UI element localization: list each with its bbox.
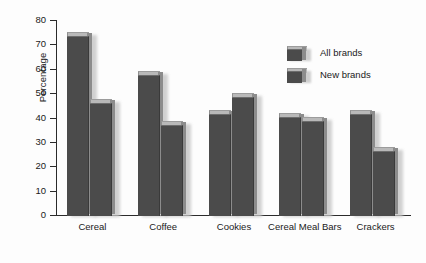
y-axis-tick-mark — [50, 69, 57, 70]
y-axis-tick-label: 70 — [4, 39, 46, 49]
y-axis-tick-label-slot: 80 — [0, 20, 46, 21]
bar-front-face — [350, 114, 372, 216]
y-axis-tick-mark — [50, 20, 57, 21]
y-axis-tick-label: 0 — [4, 210, 46, 220]
legend-item-label: New brands — [320, 69, 371, 80]
y-axis-tick-mark — [50, 166, 57, 167]
y-axis-tick-mark — [50, 93, 57, 94]
y-axis-tick-label-slot: 60 — [0, 69, 46, 70]
y-axis-tick-label-slot: 20 — [0, 166, 46, 167]
y-axis-tick-label: 50 — [4, 88, 46, 98]
bar-front-face — [232, 97, 254, 216]
legend-swatch-icon — [287, 46, 311, 60]
bar-chart: Percentage 01020304050607080 CerealCoffe… — [0, 0, 426, 263]
y-axis-tick-mark — [50, 44, 57, 45]
y-axis-tick-label-slot: 40 — [0, 118, 46, 119]
y-axis-tick-label-slot: 70 — [0, 44, 46, 45]
legend-swatch-side-face — [302, 47, 306, 60]
legend-swatch-icon — [287, 68, 311, 82]
y-axis-tick-label: 60 — [4, 64, 46, 74]
bar — [90, 99, 116, 215]
y-axis-tick-mark — [50, 191, 57, 192]
y-axis-tick-label: 30 — [4, 137, 46, 147]
y-axis-tick-label: 10 — [4, 186, 46, 196]
y-axis-tick-label-slot: 30 — [0, 142, 46, 143]
legend-item-label: All brands — [320, 47, 362, 58]
bar-front-face — [67, 36, 89, 216]
y-axis-tick-label: 80 — [4, 15, 46, 25]
legend-swatch-front-face — [287, 49, 302, 61]
bar-front-face — [302, 121, 324, 216]
y-axis-tick-label: 40 — [4, 113, 46, 123]
legend-swatch-front-face — [287, 71, 302, 83]
x-axis-tick-label: Crackers — [328, 221, 424, 233]
bar — [161, 121, 187, 215]
bar-front-face — [138, 75, 160, 216]
legend-swatch-side-face — [302, 69, 306, 82]
y-axis-tick-label: 20 — [4, 161, 46, 171]
bar-front-face — [279, 117, 301, 217]
bar — [232, 93, 258, 215]
y-axis-tick-mark — [50, 215, 57, 216]
y-axis-tick-label-slot: 50 — [0, 93, 46, 94]
y-axis-tick-mark — [50, 118, 57, 119]
bar — [302, 117, 328, 215]
y-axis-tick-label-slot: 10 — [0, 191, 46, 192]
bar-front-face — [209, 114, 231, 216]
bar-front-face — [373, 151, 395, 216]
y-axis-title: Percentage — [37, 38, 48, 118]
y-axis-tick-mark — [50, 142, 57, 143]
bar-front-face — [90, 103, 112, 216]
bar-front-face — [161, 125, 183, 216]
bar — [373, 147, 399, 215]
y-axis-tick-label-slot: 0 — [0, 215, 46, 216]
